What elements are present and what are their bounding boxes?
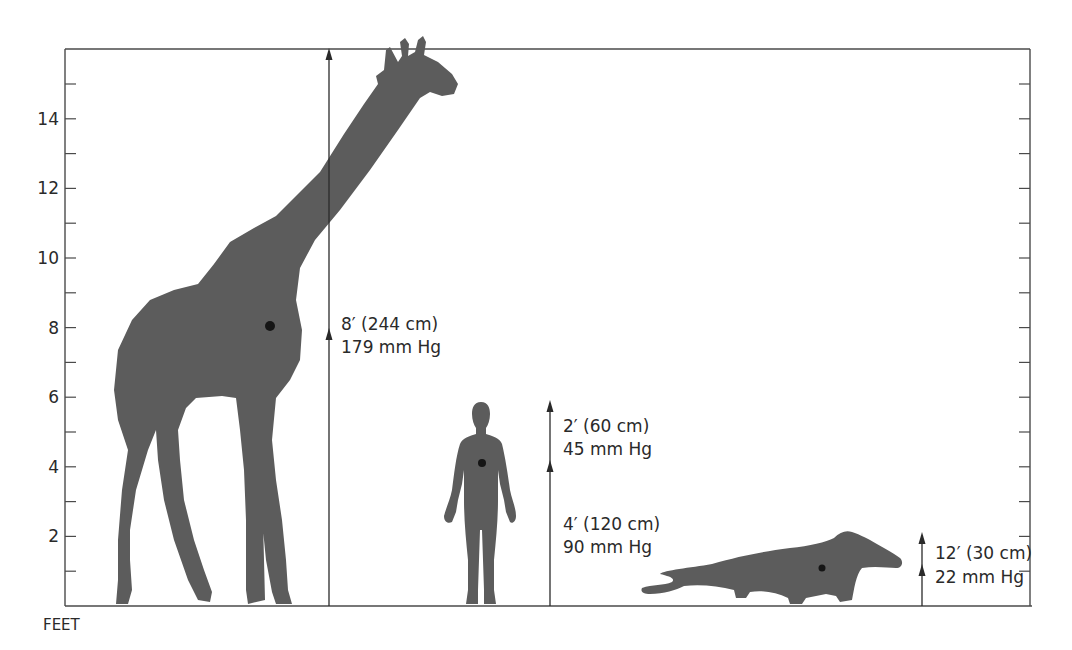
human-silhouette — [444, 402, 516, 604]
human-lower-pressure-label: 90 mm Hg — [563, 537, 652, 557]
height-comparison-diagram: 2468101214 FEET 8′ (244 cm) 179 mm Hg 2′… — [0, 0, 1072, 650]
giraffe-heart-marker — [265, 321, 275, 331]
giraffe-distance-label: 8′ (244 cm) — [341, 314, 438, 334]
giraffe-pressure-label: 179 mm Hg — [341, 337, 441, 357]
y-tick-label: 2 — [48, 526, 59, 546]
y-tick-label: 14 — [37, 109, 59, 129]
reptile — [641, 531, 902, 604]
human-upper-distance-label: 2′ (60 cm) — [563, 416, 649, 436]
human-lower-distance-label: 4′ (120 cm) — [563, 514, 660, 534]
reptile-measurement: 12′ (30 cm) 22 mm Hg — [919, 532, 1033, 606]
reptile-distance-label: 12′ (30 cm) — [935, 543, 1032, 563]
arrow-up-icon — [326, 328, 333, 340]
y-tick-label: 4 — [48, 457, 59, 477]
human — [444, 402, 516, 604]
y-tick-label: 10 — [37, 248, 59, 268]
y-tick-label: 12 — [37, 178, 59, 198]
axis-tick-labels: 2468101214 — [37, 109, 59, 547]
y-tick-label: 8 — [48, 318, 59, 338]
human-upper-pressure-label: 45 mm Hg — [563, 439, 652, 459]
arrow-up-icon — [919, 564, 926, 576]
reptile-silhouette — [641, 531, 902, 604]
reptile-heart-marker — [819, 565, 826, 572]
arrow-up-icon — [326, 48, 333, 60]
arrow-up-icon — [547, 400, 554, 412]
human-measurement: 2′ (60 cm) 45 mm Hg 4′ (120 cm) 90 mm Hg — [547, 400, 661, 606]
arrow-up-icon — [919, 532, 926, 544]
axis-unit-label: FEET — [43, 616, 81, 634]
human-heart-marker — [478, 459, 486, 467]
y-tick-label: 6 — [48, 387, 59, 407]
arrow-up-icon — [547, 460, 554, 472]
reptile-pressure-label: 22 mm Hg — [935, 567, 1024, 587]
